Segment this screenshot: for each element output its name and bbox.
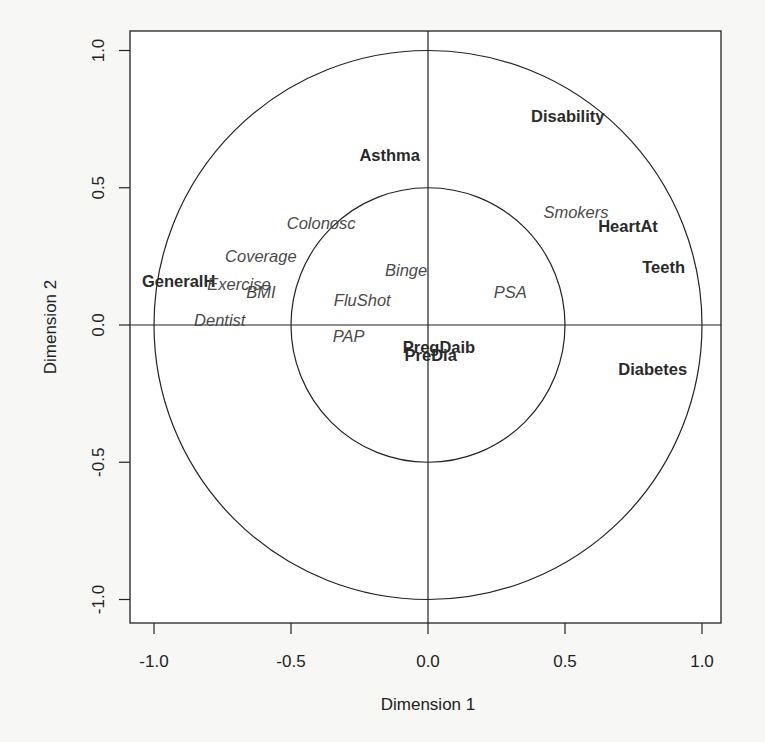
- point-label-heartat: HeartAt: [598, 217, 658, 235]
- x-tick-label: -1.0: [139, 652, 168, 671]
- point-label-bmi: BMI: [246, 283, 276, 301]
- point-label-generalh: GeneralH: [142, 272, 215, 290]
- point-label-coverage: Coverage: [225, 247, 297, 265]
- y-tick-label: 0.5: [89, 176, 108, 200]
- point-label-flushot: FluShot: [334, 291, 392, 309]
- point-label-disability: Disability: [531, 107, 605, 125]
- correlation-circle-chart: DisabilityAsthmaSmokersHeartAtColonoscCo…: [0, 0, 765, 742]
- x-tick-label: 0.0: [416, 652, 440, 671]
- x-axis: -1.0-0.50.00.51.0: [139, 623, 713, 671]
- x-tick-label: 0.5: [553, 652, 577, 671]
- point-label-binge: Binge: [385, 261, 427, 279]
- point-label-teeth: Teeth: [642, 258, 685, 276]
- point-label-dentist: Dentist: [194, 311, 247, 329]
- point-label-pap: PAP: [333, 327, 365, 345]
- point-label-asthma: Asthma: [359, 146, 420, 164]
- x-axis-title: Dimension 1: [381, 695, 476, 714]
- point-label-diabetes: Diabetes: [618, 360, 687, 378]
- y-tick-label: -1.0: [89, 585, 108, 614]
- x-tick-label: 1.0: [690, 652, 714, 671]
- x-tick-label: -0.5: [276, 652, 305, 671]
- y-axis-title: Dimension 2: [41, 280, 60, 375]
- y-tick-label: -0.5: [89, 448, 108, 477]
- point-label-predia: PreDia: [405, 346, 458, 364]
- y-tick-label: 0.0: [89, 313, 108, 337]
- point-label-psa: PSA: [494, 283, 527, 301]
- point-label-colonosc: Colonosc: [287, 214, 357, 232]
- y-axis: -1.0-0.50.00.51.0: [89, 39, 130, 614]
- y-tick-label: 1.0: [89, 39, 108, 63]
